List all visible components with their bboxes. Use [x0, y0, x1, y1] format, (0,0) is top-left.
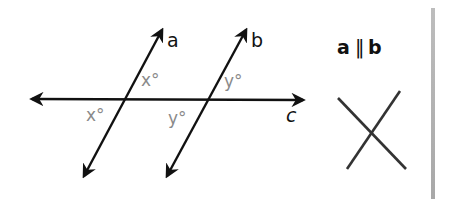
relation-right: b — [368, 36, 382, 58]
parallel-lines-diagram: a b c x° x° y° y° a ‖ b — [0, 0, 452, 199]
line-a — [84, 30, 162, 176]
label-a: a — [167, 29, 179, 51]
angle-label-a-lower: x° — [86, 105, 105, 125]
relation-left: a — [337, 36, 350, 58]
line-c — [32, 99, 303, 100]
angle-label-b-lower: y° — [168, 108, 187, 128]
label-b: b — [251, 29, 263, 51]
label-c: c — [286, 104, 297, 126]
line-b — [167, 30, 246, 176]
x-cross-icon — [338, 91, 406, 169]
angle-label-a-upper: x° — [141, 70, 160, 90]
page-edge-bar — [431, 8, 435, 199]
angle-label-b-upper: y° — [224, 71, 243, 91]
relation-symbol: ‖ — [355, 36, 365, 59]
